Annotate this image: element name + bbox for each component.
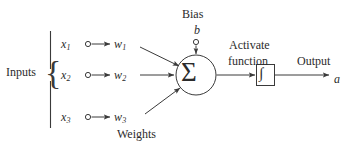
output-label: Output: [297, 55, 330, 67]
weight-label-w1: w1: [114, 38, 126, 52]
inputs-group-label: Inputs: [6, 66, 36, 78]
activation-function-glyph: ∫: [259, 66, 263, 81]
summation-sigma-glyph: Σ: [181, 59, 197, 86]
weight-label-w2: w2: [114, 69, 126, 83]
input-terminal-x1-circle: [85, 41, 90, 46]
neuron-diagram: Inputs { Bias b x1 x2 x3 w1 w2 w3 Weight…: [0, 0, 352, 148]
edge-w3-sum: [145, 88, 180, 114]
bias-terminal-circle: [193, 39, 198, 44]
weight-label-w3: w3: [114, 111, 126, 125]
input-terminal-x2-circle: [85, 72, 90, 77]
input-label-x3: x3: [61, 111, 70, 125]
input-label-x1: x1: [61, 38, 70, 52]
bias-symbol-label: b: [194, 24, 200, 36]
input-terminal-x3-circle: [85, 114, 90, 119]
edge-w1-sum: [140, 47, 179, 66]
input-label-x2: x2: [61, 69, 70, 83]
activate-label: Activate: [229, 39, 270, 51]
input-group-brace-glyph: {: [45, 56, 61, 90]
output-symbol-label: a: [334, 73, 340, 85]
bias-label: Bias: [182, 8, 203, 20]
weights-group-label: Weights: [117, 128, 156, 140]
